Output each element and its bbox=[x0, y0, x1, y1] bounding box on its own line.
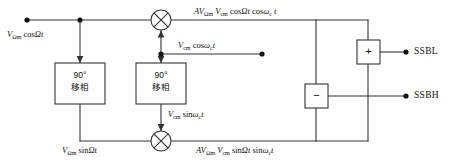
phase-shifter-carrier-line1: 90° bbox=[136, 70, 186, 81]
terminal-output-ssbh bbox=[403, 93, 408, 98]
arrow-into-top-mixer bbox=[158, 31, 165, 38]
phase-shifter-carrier-line2: 移相 bbox=[136, 82, 186, 93]
phase-shifter-baseband-line1: 90° bbox=[55, 70, 105, 81]
junction-carrier bbox=[158, 51, 163, 56]
ssb-modulator-diagram: VΩm cosΩt VΩm sinΩt Vcm cosωct Vcm sinωc… bbox=[0, 0, 451, 166]
phase-shifter-baseband-line2: 移相 bbox=[55, 82, 105, 93]
adder-symbol: + bbox=[357, 46, 380, 57]
label-carrier-shifted: Vcm sinωct bbox=[168, 110, 204, 119]
label-input-bottom: VΩm sinΩt bbox=[62, 146, 97, 155]
label-carrier-input: Vcm cosωct bbox=[178, 41, 215, 50]
label-product-bottom: AVΩm Vcm sinΩt sinωct bbox=[196, 146, 273, 155]
junction-top-branch bbox=[77, 17, 82, 22]
subtractor-symbol: − bbox=[305, 90, 328, 101]
arrow-into-baseband-shifter bbox=[77, 56, 84, 63]
terminal-output-ssbl bbox=[403, 49, 408, 54]
terminal-input-top bbox=[24, 17, 29, 22]
arrow-into-bottom-mixer bbox=[158, 124, 165, 131]
label-input-top: VΩm cosΩt bbox=[7, 30, 43, 39]
arrow-into-carrier-shifter bbox=[158, 56, 165, 63]
terminal-carrier-input bbox=[259, 51, 264, 56]
output-label-ssbh: SSBH bbox=[414, 90, 439, 100]
output-label-ssbl: SSBL bbox=[414, 46, 438, 56]
label-product-top: AVΩm Vcm cosΩt cosωc t bbox=[194, 7, 276, 16]
